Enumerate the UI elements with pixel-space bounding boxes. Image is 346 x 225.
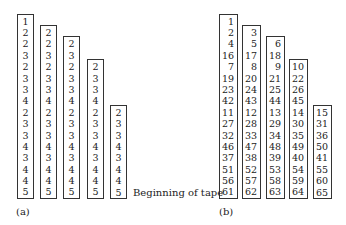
tape-cell: 38 [243, 152, 260, 163]
tape-cell: 21 [267, 73, 284, 84]
tape-cell: 64 [290, 186, 307, 197]
tape-cell: 2 [18, 107, 33, 118]
tape-cell: 2 [220, 27, 237, 38]
tape-cell: 4 [64, 141, 79, 152]
tape-cell: 51 [220, 164, 237, 175]
tape-cell: 3 [64, 84, 79, 95]
tape-cell: 5 [18, 186, 33, 197]
tape-cell: 9 [267, 61, 284, 72]
tape-cell: 19 [220, 73, 237, 84]
tape-cell: 39 [267, 152, 284, 163]
tape-cell: 3 [64, 130, 79, 141]
tape-cell: 45 [290, 95, 307, 106]
tape-cell: 4 [111, 175, 126, 186]
tape-cell: 3 [243, 27, 260, 38]
tape-cell: 4 [111, 164, 126, 175]
tape-cell: 2 [64, 61, 79, 72]
tape-cell: 2 [64, 107, 79, 118]
tape-cell: 11 [220, 107, 237, 118]
tape-cell: 3 [18, 152, 33, 163]
tape-cell: 3 [41, 152, 56, 163]
tape-cell: 41 [314, 152, 331, 163]
tape-cell: 3 [88, 118, 103, 129]
tape-cell: 4 [64, 175, 79, 186]
tape-cell: 3 [18, 50, 33, 61]
tape-cell: 2 [41, 107, 56, 118]
tape-column: 23343445 [110, 105, 127, 199]
tape-cell: 3 [41, 118, 56, 129]
tape-cell: 3 [111, 118, 126, 129]
tape-cell: 26 [290, 84, 307, 95]
tape-cell: 58 [267, 175, 284, 186]
tape-cell: 43 [243, 95, 260, 106]
tape-cell: 5 [111, 187, 126, 198]
tape-cell: 59 [290, 175, 307, 186]
tape-cell: 10 [290, 61, 307, 72]
tape-cell: 29 [267, 118, 284, 129]
tape-cell: 3 [88, 130, 103, 141]
tape-cell: 31 [314, 118, 331, 129]
tape-cell: 3 [18, 130, 33, 141]
tape-cell: 4 [41, 141, 56, 152]
tape-cell: 3 [64, 118, 79, 129]
caption-b: (b) [219, 206, 233, 217]
tape-cell: 2 [41, 61, 56, 72]
tape-cell: 32 [220, 130, 237, 141]
tape-cell: 5 [243, 38, 260, 49]
tape-cell: 65 [314, 187, 331, 198]
tape-cell: 62 [243, 186, 260, 197]
tape-cell: 28 [243, 118, 260, 129]
tape-cell: 27 [220, 118, 237, 129]
tape-cell: 4 [111, 141, 126, 152]
tape-column: 223233423343445 [40, 25, 57, 199]
tape-cell: 2 [41, 38, 56, 49]
tape-cell: 6 [267, 38, 284, 49]
tape-cell: 3 [88, 152, 103, 163]
tape-cell: 2 [18, 38, 33, 49]
tape-cell: 4 [88, 175, 103, 186]
tape-cell: 3 [111, 130, 126, 141]
tape-cell: 2 [111, 107, 126, 118]
tape-cell: 7 [220, 61, 237, 72]
tape-cell: 49 [290, 141, 307, 152]
tape-cell: 4 [18, 175, 33, 186]
tape-cell: 5 [64, 186, 79, 197]
tape-column: 61892125441329344839535863 [266, 36, 285, 199]
tape-cell: 53 [267, 164, 284, 175]
tape-cell: 4 [88, 141, 103, 152]
tape-cell: 46 [220, 141, 237, 152]
tape-cell: 2 [64, 38, 79, 49]
tape-cell: 54 [290, 164, 307, 175]
tape-cell: 3 [111, 152, 126, 163]
tape-cell: 4 [18, 95, 33, 106]
tape-column: 1241671923421127324637515661 [219, 14, 238, 199]
tape-cell: 24 [243, 84, 260, 95]
tape-cell: 23 [220, 84, 237, 95]
tape-cell: 63 [267, 186, 284, 197]
beginning-of-tape-label: Beginning of tape [133, 187, 223, 198]
tape-cell: 16 [220, 50, 237, 61]
tape-cell: 25 [267, 84, 284, 95]
tape-cell: 20 [243, 73, 260, 84]
tape-cell: 52 [243, 164, 260, 175]
tape-cell: 12 [243, 107, 260, 118]
tape-cell: 14 [290, 107, 307, 118]
tape-column: 1223233423343445 [17, 14, 34, 199]
tape-column: 1531365041556065 [313, 105, 332, 199]
tape-cell: 35 [290, 130, 307, 141]
tape-cell: 57 [243, 175, 260, 186]
tape-cell: 8 [243, 61, 260, 72]
tape-cell: 3 [64, 50, 79, 61]
tape-column: 351782024431228334738525762 [242, 25, 261, 199]
tape-cell: 4 [64, 95, 79, 106]
tape-cell: 4 [18, 164, 33, 175]
tape-cell: 2 [18, 61, 33, 72]
tape-cell: 48 [267, 141, 284, 152]
tape-cell: 3 [88, 73, 103, 84]
tape-cell: 3 [41, 50, 56, 61]
tape-cell: 47 [243, 141, 260, 152]
tape-cell: 3 [88, 84, 103, 95]
tape-cell: 15 [314, 107, 331, 118]
tape-cell: 4 [18, 141, 33, 152]
tape-cell: 17 [243, 50, 260, 61]
